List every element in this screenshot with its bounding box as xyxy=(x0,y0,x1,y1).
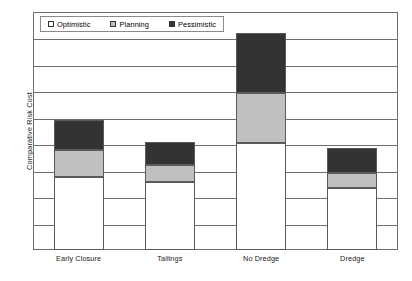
legend-label-planning: Planning xyxy=(119,20,149,29)
bar-segment-planning[interactable] xyxy=(145,165,195,182)
bar-segment-pessimistic[interactable] xyxy=(145,142,195,165)
stacked-bar[interactable] xyxy=(327,148,377,250)
bar-segment-optimistic[interactable] xyxy=(54,177,104,250)
x-axis-label: Tailings xyxy=(124,254,215,263)
chart-legend: Optimistic Planning Pessimistic xyxy=(40,16,224,32)
legend-swatch-pessimistic xyxy=(169,21,175,27)
stacked-bar[interactable] xyxy=(236,33,286,250)
chart-figure: Comparative Risk Cost Early ClosureTaili… xyxy=(0,0,412,281)
bar-segment-planning[interactable] xyxy=(327,173,377,188)
bar-series-group xyxy=(33,12,398,250)
legend-label-pessimistic: Pessimistic xyxy=(178,20,216,29)
x-axis-label: No Dredge xyxy=(216,254,307,263)
bar-segment-planning[interactable] xyxy=(236,93,286,143)
bar-segment-optimistic[interactable] xyxy=(327,188,377,250)
stacked-bar[interactable] xyxy=(54,120,104,250)
legend-item-pessimistic: Pessimistic xyxy=(169,20,216,29)
x-axis-label: Dredge xyxy=(307,254,398,263)
bar-segment-pessimistic[interactable] xyxy=(54,120,104,150)
x-axis-labels: Early ClosureTailingsNo DredgeDredge xyxy=(33,254,398,274)
legend-label-optimistic: Optimistic xyxy=(57,20,90,29)
bar-segment-planning[interactable] xyxy=(54,150,104,177)
x-axis-label: Early Closure xyxy=(33,254,124,263)
stacked-bar[interactable] xyxy=(145,142,195,250)
legend-item-optimistic: Optimistic xyxy=(48,20,90,29)
legend-swatch-planning xyxy=(110,21,116,27)
bar-segment-optimistic[interactable] xyxy=(145,182,195,250)
bar-segment-optimistic[interactable] xyxy=(236,143,286,250)
bar-segment-pessimistic[interactable] xyxy=(236,33,286,93)
bar-segment-pessimistic[interactable] xyxy=(327,148,377,173)
legend-item-planning: Planning xyxy=(110,20,149,29)
legend-swatch-optimistic xyxy=(48,21,54,27)
